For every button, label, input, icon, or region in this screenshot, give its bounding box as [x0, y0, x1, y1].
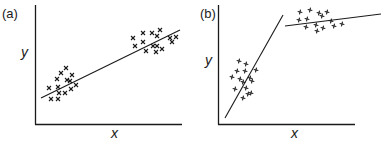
x-marker — [144, 49, 148, 53]
plus-marker — [237, 59, 242, 64]
x-marker — [70, 73, 74, 77]
plus-marker — [250, 79, 255, 84]
plus-marker — [325, 10, 330, 15]
plus-marker — [244, 62, 249, 67]
plus-marker — [230, 75, 235, 80]
x-marker — [133, 44, 137, 48]
plus-marker — [233, 87, 238, 92]
plus-marker — [243, 69, 248, 74]
x-marker — [64, 66, 68, 70]
x-marker — [141, 31, 145, 35]
plus-marker — [298, 10, 303, 15]
plus-marker — [241, 96, 246, 101]
x-marker — [150, 31, 154, 35]
plus-marker — [244, 86, 249, 91]
x-marker — [47, 86, 51, 90]
x-marker — [57, 91, 61, 95]
plus-marker — [317, 11, 322, 16]
x-marker — [170, 40, 174, 44]
plus-marker — [308, 8, 313, 13]
plus-marker — [320, 14, 325, 19]
x-marker — [49, 97, 53, 101]
plus-marker — [315, 29, 320, 34]
x-marker — [131, 36, 135, 40]
x-marker — [155, 34, 159, 38]
x-marker — [141, 40, 145, 44]
x-marker — [56, 97, 60, 101]
plus-marker — [297, 18, 302, 23]
x-marker — [154, 50, 158, 54]
x-marker — [63, 91, 67, 95]
x-marker — [69, 87, 73, 91]
plus-marker — [254, 68, 259, 73]
plus-marker — [332, 24, 337, 29]
plus-marker — [314, 23, 319, 28]
scatter-plots — [0, 0, 383, 147]
x-marker — [174, 35, 178, 39]
x-marker — [155, 44, 159, 48]
plus-marker — [305, 17, 310, 22]
x-marker — [59, 71, 63, 75]
plus-marker — [235, 69, 240, 74]
plus-marker — [321, 26, 326, 31]
plus-marker — [238, 77, 243, 82]
panel-b-axes — [218, 5, 355, 125]
x-marker — [158, 28, 162, 32]
x-marker — [55, 77, 59, 81]
regression-line — [41, 30, 180, 98]
x-marker — [160, 47, 164, 51]
x-marker — [74, 83, 78, 87]
plus-marker — [340, 22, 345, 27]
x-marker — [151, 44, 155, 48]
data-series — [41, 8, 381, 118]
regression-line — [225, 15, 283, 118]
plus-marker — [304, 25, 309, 30]
x-marker — [168, 36, 172, 40]
